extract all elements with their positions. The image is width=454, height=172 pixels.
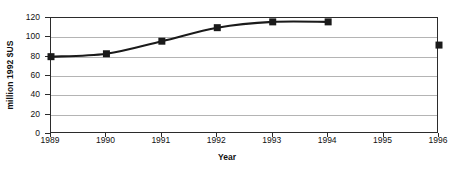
x-tick-mark xyxy=(438,133,439,137)
x-tick-label: 1991 xyxy=(139,136,183,145)
data-point-marker xyxy=(214,24,221,31)
y-tick-label: 120 xyxy=(10,13,40,22)
x-tick-mark xyxy=(383,133,384,137)
x-tick-label: 1992 xyxy=(194,136,238,145)
data-point-marker xyxy=(436,42,443,49)
x-tick-label: 1994 xyxy=(305,136,349,145)
x-tick-mark xyxy=(327,133,328,137)
x-tick-mark xyxy=(216,133,217,137)
x-tick-label: 1989 xyxy=(28,136,72,145)
data-point-marker xyxy=(325,18,332,25)
y-tick-label: 20 xyxy=(10,110,40,119)
x-tick-label: 1993 xyxy=(250,136,294,145)
y-tick-label: 80 xyxy=(10,52,40,61)
x-tick-label: 1995 xyxy=(361,136,405,145)
x-tick-mark xyxy=(105,133,106,137)
y-tick-label: 60 xyxy=(10,71,40,80)
y-tick-label: 100 xyxy=(10,32,40,41)
data-point-marker xyxy=(48,53,55,60)
line-chart: million 1992 $US 020406080100120 1989199… xyxy=(0,0,454,172)
data-layer xyxy=(51,18,439,134)
x-tick-mark xyxy=(161,133,162,137)
data-point-marker xyxy=(103,50,110,57)
x-tick-mark xyxy=(272,133,273,137)
series-line xyxy=(51,21,328,56)
y-tick-label: 40 xyxy=(10,90,40,99)
plot-area xyxy=(50,17,438,133)
x-axis-title: Year xyxy=(0,152,454,162)
x-tick-mark xyxy=(50,133,51,137)
x-tick-label: 1990 xyxy=(83,136,127,145)
data-point-marker xyxy=(158,38,165,45)
x-tick-label: 1996 xyxy=(416,136,454,145)
data-point-marker xyxy=(269,18,276,25)
